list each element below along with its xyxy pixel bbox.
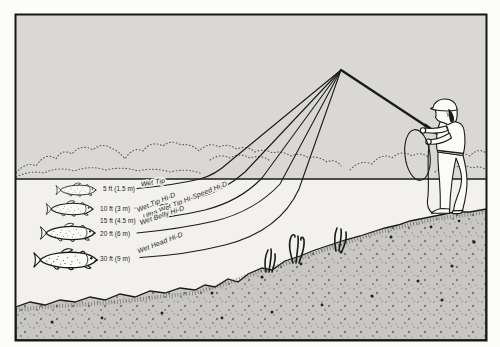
depth-label-20ft: 20 ft (6 m) bbox=[100, 230, 130, 238]
diagram-canvas: 5 ft (1.5 m) 10 ft (3 m) 15 ft (4.5 m) 2… bbox=[0, 0, 500, 347]
fly-line-depth-diagram: 5 ft (1.5 m) 10 ft (3 m) 15 ft (4.5 m) 2… bbox=[0, 0, 500, 347]
depth-label-10ft: 10 ft (3 m) bbox=[100, 205, 130, 213]
sky bbox=[16, 15, 486, 179]
depth-label-30ft: 30 ft (9 m) bbox=[100, 255, 130, 263]
depth-label-5ft: 5 ft (1.5 m) bbox=[103, 185, 135, 193]
depth-label-15ft: 15 ft (4.5 m) bbox=[100, 217, 136, 225]
